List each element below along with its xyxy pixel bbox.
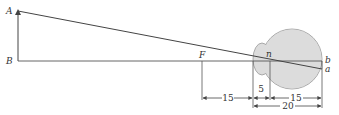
- label-B: B: [5, 56, 13, 66]
- dimension-focal: 15: [203, 93, 252, 103]
- label-n: n: [266, 49, 272, 59]
- label-A: A: [5, 6, 13, 16]
- label-a: a: [325, 64, 330, 74]
- dimension-cornea-nodal: 5: [254, 84, 269, 98]
- eye-shape: [253, 29, 322, 89]
- dim-label-5: 5: [258, 84, 264, 94]
- dim-label-15-front: 15: [222, 93, 234, 103]
- dimension-nodal-retina: 15: [271, 93, 321, 103]
- label-F: F: [198, 50, 206, 60]
- dimension-cornea-retina: 20: [254, 101, 321, 111]
- dim-label-20: 20: [282, 101, 294, 111]
- reduced-eye-diagram: 15 5 15 20 A B F n b a: [0, 0, 339, 115]
